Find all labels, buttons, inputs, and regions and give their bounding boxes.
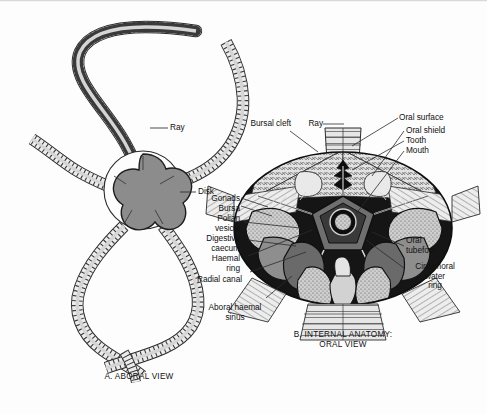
caption-panel-a: A. ABORAL VIEW <box>44 372 234 382</box>
caption-panel-b-line2: ORAL VIEW <box>263 340 423 350</box>
label-aboral-haemal-sinus: Aboral haemal sinus <box>200 303 270 322</box>
label-circumoral-water-ring: Circumoral water ring <box>404 262 466 291</box>
label-mouth: Mouth <box>406 146 429 156</box>
label-oral-tubefoot: Oral tubefoot <box>406 236 436 255</box>
label-ray-b: Ray <box>293 119 323 129</box>
label-ray-a: Ray <box>170 123 185 133</box>
label-radial-canal: Radial canal <box>180 275 242 285</box>
label-polian-vesicle: Polian vesicle <box>182 214 240 233</box>
anatomy-figure <box>0 0 487 414</box>
label-bursal-cleft: Bursal cleft <box>233 119 291 129</box>
caption-panel-b-line1: B. INTERNAL ANATOMY: <box>263 330 423 340</box>
label-haemal-ring: Haemal ring <box>182 254 240 273</box>
label-digestive-caecum: Digestive caecum <box>178 234 240 253</box>
label-oral-surface: Oral surface <box>399 113 444 123</box>
